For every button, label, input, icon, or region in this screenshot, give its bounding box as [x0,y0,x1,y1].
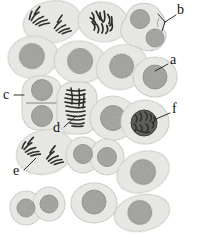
nucleus-upper [32,80,53,101]
label-a: a [170,53,176,67]
cell-interphase-bottom-1 [71,183,117,223]
label-c: c [3,88,9,102]
cell-cytokinesis-bottom [10,187,65,225]
nucleus-upper [131,10,150,29]
label-e: e [13,164,19,178]
nucleus-lower [32,106,53,127]
label-b: b [177,3,184,17]
nucleus-left [74,145,93,164]
cell-cytokinesis-mid [66,137,124,175]
nucleus-lower [146,29,164,47]
mitosis-figure: a b c d e f [0,0,198,245]
cell-layer [5,0,177,236]
nucleus-left [17,199,35,217]
nucleus [143,65,167,89]
label-f: f [172,102,177,116]
nucleus-right [40,195,58,213]
nucleus [82,190,106,214]
micrograph-canvas [0,0,198,245]
cell-prophase-f [121,100,169,144]
label-d: d [53,121,60,135]
nucleus-right [98,148,117,167]
